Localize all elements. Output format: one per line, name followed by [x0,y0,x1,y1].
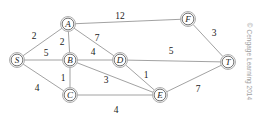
edge-weight-a-f: 12 [115,11,125,21]
node-label-d: D [116,55,124,65]
node-label-f: F [184,14,191,24]
graph-node-s: S [10,53,25,68]
node-label-b: B [67,55,73,65]
edge-weight-f-t: 3 [212,28,217,38]
graph-edge-d-t [128,60,221,62]
graph-edge-e-t [167,65,222,91]
graph-node-c: C [63,88,78,103]
graph-edge-b-e [77,63,153,93]
edge-weight-s-c: 4 [35,83,40,93]
copyright-credit-text: © Cengage Learning 2014 [247,22,254,99]
edge-weight-d-e: 1 [144,70,149,80]
graph-node-d: D [113,53,128,68]
graph-node-f: F [181,12,196,27]
graph-edge-a-f [75,19,180,23]
edge-weight-a-d: 7 [95,33,100,43]
graph-edge-a-b [68,31,69,52]
edge-weight-a-b: 2 [60,37,65,47]
graph-edge-d-e [126,65,155,90]
node-label-e: E [156,90,163,100]
graph-edge-s-c [23,64,63,91]
edge-weight-s-b: 5 [44,48,49,58]
edge-weight-d-t: 5 [169,46,174,56]
graph-edge-s-a [23,28,62,55]
edge-weight-b-d: 4 [91,47,96,57]
node-label-c: C [67,90,74,100]
graph-node-b: B [63,53,78,68]
graph-edge-f-t [193,24,223,56]
graph-node-a: A [61,17,76,32]
graph-node-e: E [153,88,168,103]
graph-node-t: T [221,55,236,70]
edge-weight-c-e: 4 [114,105,119,115]
edge-weight-s-a: 2 [32,31,37,41]
node-label-a: A [64,19,71,29]
weighted-graph-figure: SABCDEFT 254271241341573 © Cengage Learn… [0,0,257,122]
node-label-s: S [15,55,20,65]
edge-weight-e-t: 7 [196,84,201,94]
graph-canvas: SABCDEFT 254271241341573 [0,0,257,122]
edge-weight-b-e: 3 [104,75,109,85]
copyright-credit: © Cengage Learning 2014 [244,0,256,122]
edge-weight-b-c: 1 [61,73,66,83]
